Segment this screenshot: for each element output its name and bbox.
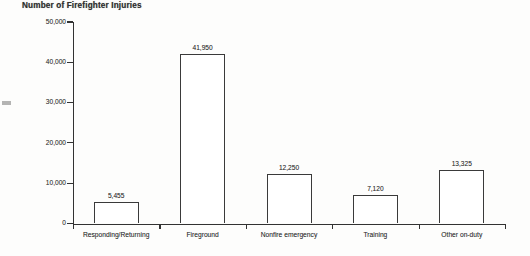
scan-artifact-mark — [2, 101, 11, 105]
x-axis-tick — [505, 224, 506, 229]
y-axis-tick-label: 20,000 — [20, 139, 66, 146]
y-axis-tick-label-wrap: 0 — [16, 219, 66, 227]
bar — [353, 195, 398, 224]
y-axis-tick-label: 40,000 — [20, 58, 66, 65]
y-axis-tick-label-wrap: 30,000 — [16, 98, 66, 106]
y-axis-tick — [67, 62, 73, 63]
x-axis-line — [73, 224, 505, 225]
y-axis-tick-label-wrap: 10,000 — [16, 179, 66, 187]
y-axis-tick-label: 50,000 — [20, 18, 66, 25]
y-axis-tick-label-wrap: 20,000 — [16, 139, 66, 147]
y-axis-tick-label-wrap: 40,000 — [16, 58, 66, 66]
chart-title: Number of Firefighter Injuries — [22, 1, 142, 10]
x-axis-tick — [332, 224, 333, 229]
bar-value-label: 12,250 — [259, 164, 319, 171]
x-axis-tick — [73, 224, 74, 229]
bar — [180, 54, 225, 223]
bar-value-label: 41,950 — [173, 44, 233, 51]
y-axis-tick-label-wrap: 50,000 — [16, 18, 66, 26]
bar-chart-figure: Number of Firefighter Injuries 010,00020… — [0, 0, 530, 256]
y-axis-tick — [67, 183, 73, 184]
y-axis-tick-label: 0 — [20, 219, 66, 226]
y-axis-line — [73, 22, 74, 225]
y-axis-tick — [67, 21, 73, 22]
y-axis-tick-label: 10,000 — [20, 179, 66, 186]
bar — [439, 170, 484, 224]
bar-value-label: 7,120 — [345, 185, 405, 192]
y-axis-tick-label: 30,000 — [20, 98, 66, 105]
bar-value-label: 13,325 — [432, 160, 492, 167]
x-axis-tick — [419, 224, 420, 229]
x-axis-tick — [159, 224, 160, 229]
x-axis-category-label: Other on-duty — [402, 231, 522, 238]
bar-value-label: 5,455 — [86, 192, 146, 199]
bar — [94, 202, 139, 224]
x-axis-tick — [246, 224, 247, 229]
y-axis-tick — [67, 102, 73, 103]
y-axis-tick — [67, 142, 73, 143]
bar — [267, 174, 312, 223]
